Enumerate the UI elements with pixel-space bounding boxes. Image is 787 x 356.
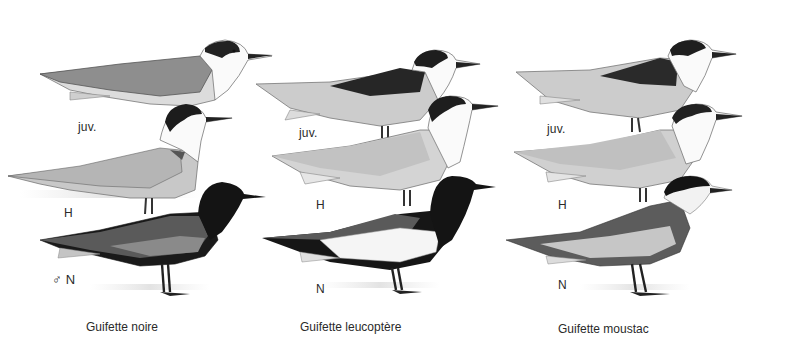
label-juvenile-col1: juv.: [78, 120, 97, 134]
tern-illustrations: [0, 0, 787, 356]
whiskered-tern-breeding: [506, 176, 733, 296]
black-tern-winter: [8, 104, 233, 214]
species-name-whiskered-tern: Guifette moustac: [558, 322, 649, 336]
label-breeding-col3: N: [558, 278, 567, 292]
label-winter-col1: H: [64, 206, 73, 220]
bird-plate-illustration: juv. H ♂ N Guifette noire juv. H N Guife…: [0, 0, 787, 356]
species-name-black-tern: Guifette noire: [86, 320, 158, 334]
species-name-white-winged-tern: Guifette leucoptère: [300, 320, 401, 334]
white-winged-tern-breeding: [262, 176, 496, 294]
label-breeding-col1: ♂ N: [52, 272, 75, 287]
label-juvenile-col2: juv.: [299, 126, 318, 140]
label-juvenile-col3: juv.: [547, 122, 566, 136]
label-winter-col2: H: [316, 198, 325, 212]
label-breeding-col2: N: [316, 282, 325, 296]
black-tern-juvenile: [40, 40, 273, 106]
label-winter-col3: H: [558, 198, 567, 212]
